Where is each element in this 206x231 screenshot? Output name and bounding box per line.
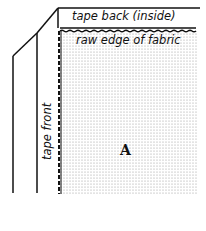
- region-a-label: A: [120, 142, 131, 158]
- raw-edge-line: [60, 30, 196, 32]
- tape-front-diagonal: [37, 8, 58, 33]
- tape-outer-diagonal: [13, 33, 37, 56]
- fabric-region: [60, 31, 197, 194]
- raw-edge-label: raw edge of fabric: [76, 33, 181, 47]
- tape-front-label: tape front: [40, 103, 54, 160]
- tape-back-label: tape back (inside): [72, 9, 176, 23]
